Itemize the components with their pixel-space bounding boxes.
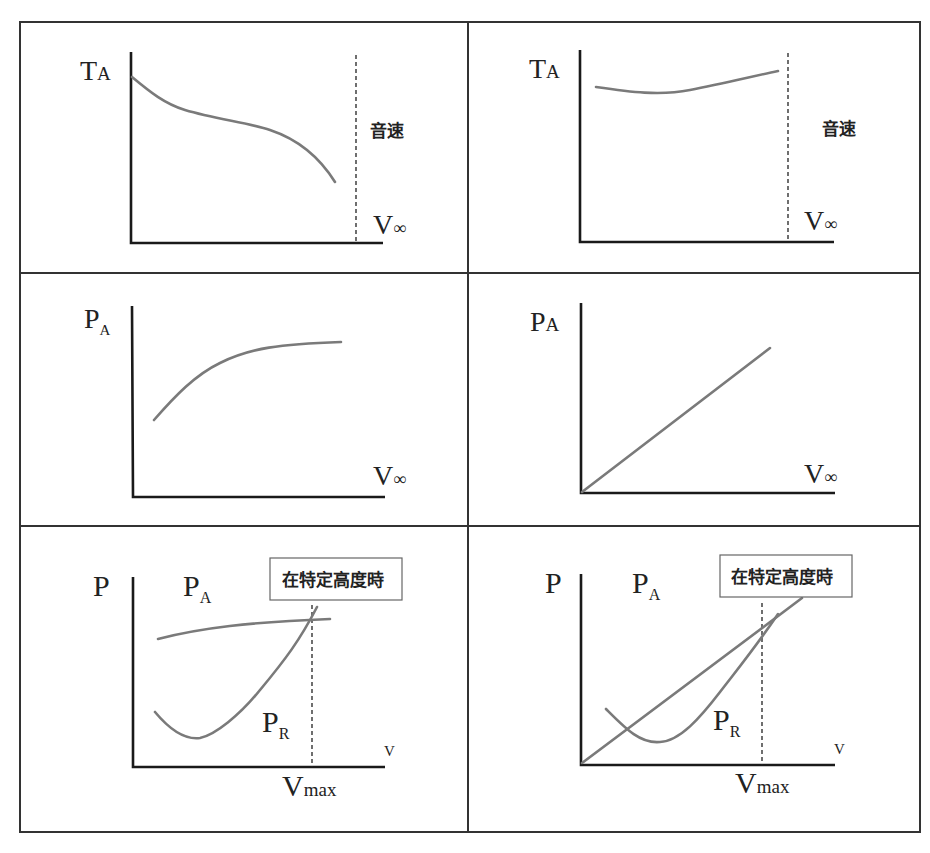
grid-frame — [20, 22, 920, 832]
axes — [131, 52, 383, 243]
x-axis-label: V∞ — [804, 205, 837, 236]
vmax-label: Vmax — [735, 766, 790, 799]
power-available-curve — [154, 342, 341, 420]
power-available-label: PA — [632, 566, 661, 603]
x-axis-label: V∞ — [804, 458, 837, 489]
power-required-curve — [606, 614, 778, 742]
axes — [580, 50, 834, 242]
x-axis-label: V — [834, 741, 845, 757]
figure-canvas: TA 音速 V∞ TA 音速 V∞ PA V∞ PA V∞ 在特定高度時 P — [0, 0, 930, 853]
x-axis-label: V — [384, 743, 395, 759]
altitude-note-box: 在特定高度時 — [720, 555, 852, 597]
power-required-label: PR — [262, 705, 290, 742]
panel-bottom-right: 在特定高度時 P PA PR V Vmax — [545, 555, 852, 799]
y-axis-label: TA — [529, 53, 560, 84]
y-axis-label: P — [545, 566, 562, 599]
power-available-label: PA — [183, 569, 212, 606]
power-required-curve — [155, 607, 317, 738]
panel-mid-left: PA V∞ — [84, 303, 406, 497]
altitude-note-box: 在特定高度時 — [270, 558, 402, 600]
power-required-label: PR — [713, 703, 741, 740]
panel-top-right: TA 音速 V∞ — [529, 50, 856, 242]
panel-bottom-left: 在特定高度時 P PA PR V Vmax — [93, 558, 402, 802]
thrust-available-curve — [596, 71, 778, 93]
svg-text:在特定高度時: 在特定高度時 — [282, 570, 384, 590]
y-axis-label: P — [93, 569, 110, 602]
outer-border — [20, 22, 920, 832]
axes — [133, 577, 385, 767]
y-axis-label: PA — [530, 306, 560, 337]
panel-top-left: TA 音速 V∞ — [80, 52, 406, 243]
power-available-line — [582, 348, 770, 492]
vmax-label: Vmax — [282, 769, 337, 802]
svg-text:在特定高度時: 在特定高度時 — [731, 567, 833, 587]
panel-mid-right: PA V∞ — [530, 303, 837, 493]
thrust-available-curve — [132, 77, 335, 182]
speed-of-sound-label: 音速 — [822, 119, 856, 139]
x-axis-label: V∞ — [373, 460, 406, 491]
power-available-line — [582, 598, 802, 763]
x-axis-label: V∞ — [373, 209, 406, 240]
y-axis-label: TA — [80, 55, 111, 86]
y-axis-label: PA — [84, 303, 111, 338]
speed-of-sound-label: 音速 — [370, 121, 404, 141]
